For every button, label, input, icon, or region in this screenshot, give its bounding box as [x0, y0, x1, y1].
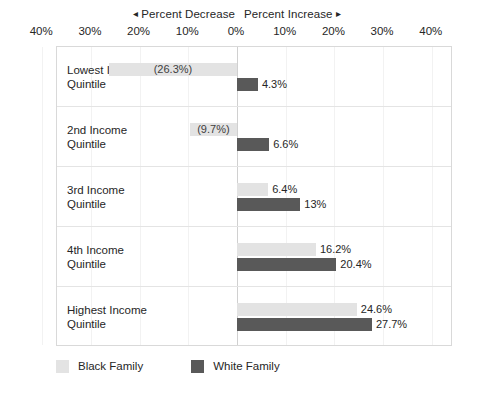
axis-tick-2: 20% — [127, 25, 150, 37]
diverging-bar-chart: ◂ Percent Decrease Percent Increase ▸ 40… — [0, 0, 479, 393]
bar-value-label: (26.3%) — [154, 63, 193, 76]
legend-item-1[interactable]: White Family — [191, 360, 279, 373]
left-arrow-icon: ◂ — [133, 8, 138, 19]
axis-tick-5: 10% — [273, 25, 296, 37]
bar-white-family — [237, 258, 336, 271]
x-axis-tick-labels: 40%30%20%10%0%10%20%30%40% — [0, 25, 479, 41]
bar-white-family — [237, 78, 258, 91]
legend-label: Black Family — [78, 360, 143, 372]
chart-row: 3rd Income Quintile6.4%13% — [57, 167, 451, 227]
row-label: 3rd Income Quintile — [67, 183, 197, 211]
legend-swatch-icon — [191, 360, 204, 373]
bar-black-family — [237, 183, 268, 196]
bar-value-label: (9.7%) — [197, 123, 229, 136]
chart-legend: Black FamilyWhite Family — [56, 358, 328, 374]
axis-direction-labels: ◂ Percent Decrease Percent Increase ▸ — [0, 8, 479, 24]
bar-value-label: 20.4% — [340, 258, 371, 271]
axis-tick-7: 30% — [371, 25, 394, 37]
axis-tick-3: 10% — [176, 25, 199, 37]
bar-value-label: 6.6% — [273, 138, 298, 151]
bar-black-family — [237, 303, 357, 316]
bar-value-label: 16.2% — [320, 243, 351, 256]
row-label: Highest Income Quintile — [67, 303, 197, 331]
percent-decrease-label: ◂ Percent Decrease — [133, 8, 235, 20]
chart-row: Highest Income Quintile24.6%27.7% — [57, 287, 451, 347]
bar-value-label: 27.7% — [376, 318, 407, 331]
bar-value-label: 4.3% — [262, 78, 287, 91]
percent-decrease-text: Percent Decrease — [141, 8, 235, 20]
bar-value-label: 6.4% — [272, 183, 297, 196]
bar-black-family — [237, 243, 316, 256]
row-label: 2nd Income Quintile — [67, 123, 197, 151]
percent-increase-text: Percent Increase — [244, 8, 333, 20]
axis-tick-1: 30% — [78, 25, 101, 37]
row-label: 4th Income Quintile — [67, 243, 197, 271]
right-arrow-icon: ▸ — [336, 8, 341, 19]
gridline — [42, 47, 43, 345]
bar-white-family — [237, 318, 372, 331]
bar-white-family — [237, 138, 269, 151]
percent-increase-label: Percent Increase ▸ — [244, 8, 341, 20]
axis-tick-4: 0% — [228, 25, 245, 37]
legend-swatch-icon — [56, 360, 69, 373]
axis-tick-8: 40% — [419, 25, 442, 37]
legend-item-0[interactable]: Black Family — [56, 360, 143, 373]
bar-value-label: 13% — [304, 198, 326, 211]
chart-row: 4th Income Quintile16.2%20.4% — [57, 227, 451, 287]
legend-label: White Family — [213, 360, 279, 372]
axis-tick-0: 40% — [30, 25, 53, 37]
chart-row: 2nd Income Quintile(9.7%)6.6% — [57, 107, 451, 167]
bar-value-label: 24.6% — [361, 303, 392, 316]
plot-area: Lowest Income Quintile(26.3%)4.3%2nd Inc… — [56, 46, 452, 346]
axis-tick-6: 20% — [322, 25, 345, 37]
bar-white-family — [237, 198, 300, 211]
chart-row: Lowest Income Quintile(26.3%)4.3% — [57, 47, 451, 107]
